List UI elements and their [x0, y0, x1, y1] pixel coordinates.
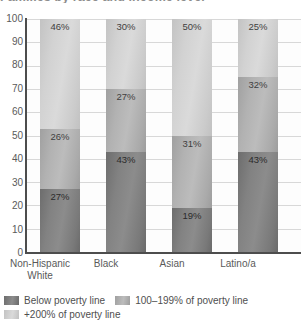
legend-label: Below poverty line [24, 295, 105, 306]
bar-segment-value: 27% [116, 92, 135, 152]
bar-segment-below-poverty[interactable]: 27% [40, 189, 80, 252]
y-tick-10: 10 [0, 225, 23, 235]
legend-item-200-plus-poverty-line[interactable]: +200% of poverty line [4, 309, 120, 320]
plot-area: 27% 26% 46% 43% 27% 30% 19% 31% 50% 43% … [26, 19, 301, 252]
legend-swatch-icon [4, 296, 19, 305]
chart-title-cropped: Families by race and income level [0, 0, 301, 3]
bar-non-hispanic-white[interactable]: 27% 26% 46% [40, 19, 80, 252]
bar-segment-100-199[interactable]: 27% [106, 89, 146, 152]
bar-segment-200-plus[interactable]: 25% [238, 19, 278, 77]
bar-latino-a[interactable]: 43% 32% 25% [238, 19, 278, 252]
legend-row-2: +200% of poverty line [4, 309, 301, 320]
legend-swatch-icon [115, 296, 130, 305]
bar-black[interactable]: 43% 27% 30% [106, 19, 146, 252]
bar-segment-value: 43% [248, 155, 267, 252]
bar-segment-value: 25% [248, 22, 267, 77]
bar-segment-below-poverty[interactable]: 43% [238, 152, 278, 252]
bar-segment-100-199[interactable]: 26% [40, 129, 80, 190]
y-tick-100: 100 [0, 14, 23, 24]
chart-legend: Below poverty line 100–199% of poverty l… [4, 295, 301, 323]
stacked-bar-chart-figure: Families by race and income level 100 90… [0, 0, 301, 328]
bar-segment-100-199[interactable]: 31% [172, 136, 212, 208]
bar-segment-below-poverty[interactable]: 43% [106, 152, 146, 252]
bar-segment-value: 31% [182, 139, 201, 208]
bar-segment-value: 32% [248, 80, 267, 152]
bar-segment-100-199[interactable]: 32% [238, 77, 278, 152]
bar-segment-value: 30% [116, 22, 135, 89]
y-tick-70: 70 [0, 84, 23, 94]
y-tick-20: 20 [0, 201, 23, 211]
bar-segment-200-plus[interactable]: 50% [172, 19, 212, 136]
y-tick-90: 90 [0, 37, 23, 47]
y-tick-30: 30 [0, 178, 23, 188]
bar-segment-value: 19% [182, 211, 201, 252]
legend-swatch-icon [4, 310, 19, 319]
legend-label: 100–199% of poverty line [135, 295, 248, 306]
legend-item-below-poverty-line[interactable]: Below poverty line [4, 295, 105, 306]
y-tick-0: 0 [0, 248, 23, 258]
y-tick-50: 50 [0, 131, 23, 141]
x-axis-line [25, 252, 301, 254]
bar-asian[interactable]: 19% 31% 50% [172, 19, 212, 252]
legend-label: +200% of poverty line [24, 309, 120, 320]
bar-segment-200-plus[interactable]: 30% [106, 19, 146, 89]
y-axis-line [25, 18, 27, 253]
x-label-line2: White [0, 270, 85, 282]
bar-segment-value: 26% [50, 132, 69, 190]
legend-item-100-199-poverty-line[interactable]: 100–199% of poverty line [115, 295, 248, 306]
bar-segment-below-poverty[interactable]: 19% [172, 208, 212, 252]
bar-segment-value: 43% [116, 155, 135, 252]
bar-segment-value: 27% [50, 192, 69, 252]
bar-segment-value: 50% [182, 22, 201, 136]
y-tick-40: 40 [0, 154, 23, 164]
y-tick-60: 60 [0, 107, 23, 117]
bar-segment-200-plus[interactable]: 46% [40, 19, 80, 129]
legend-row-1: Below poverty line 100–199% of poverty l… [4, 295, 301, 306]
bar-segment-value: 46% [50, 22, 69, 129]
y-tick-80: 80 [0, 60, 23, 70]
x-label-latino-a: Latino/a [193, 258, 283, 270]
